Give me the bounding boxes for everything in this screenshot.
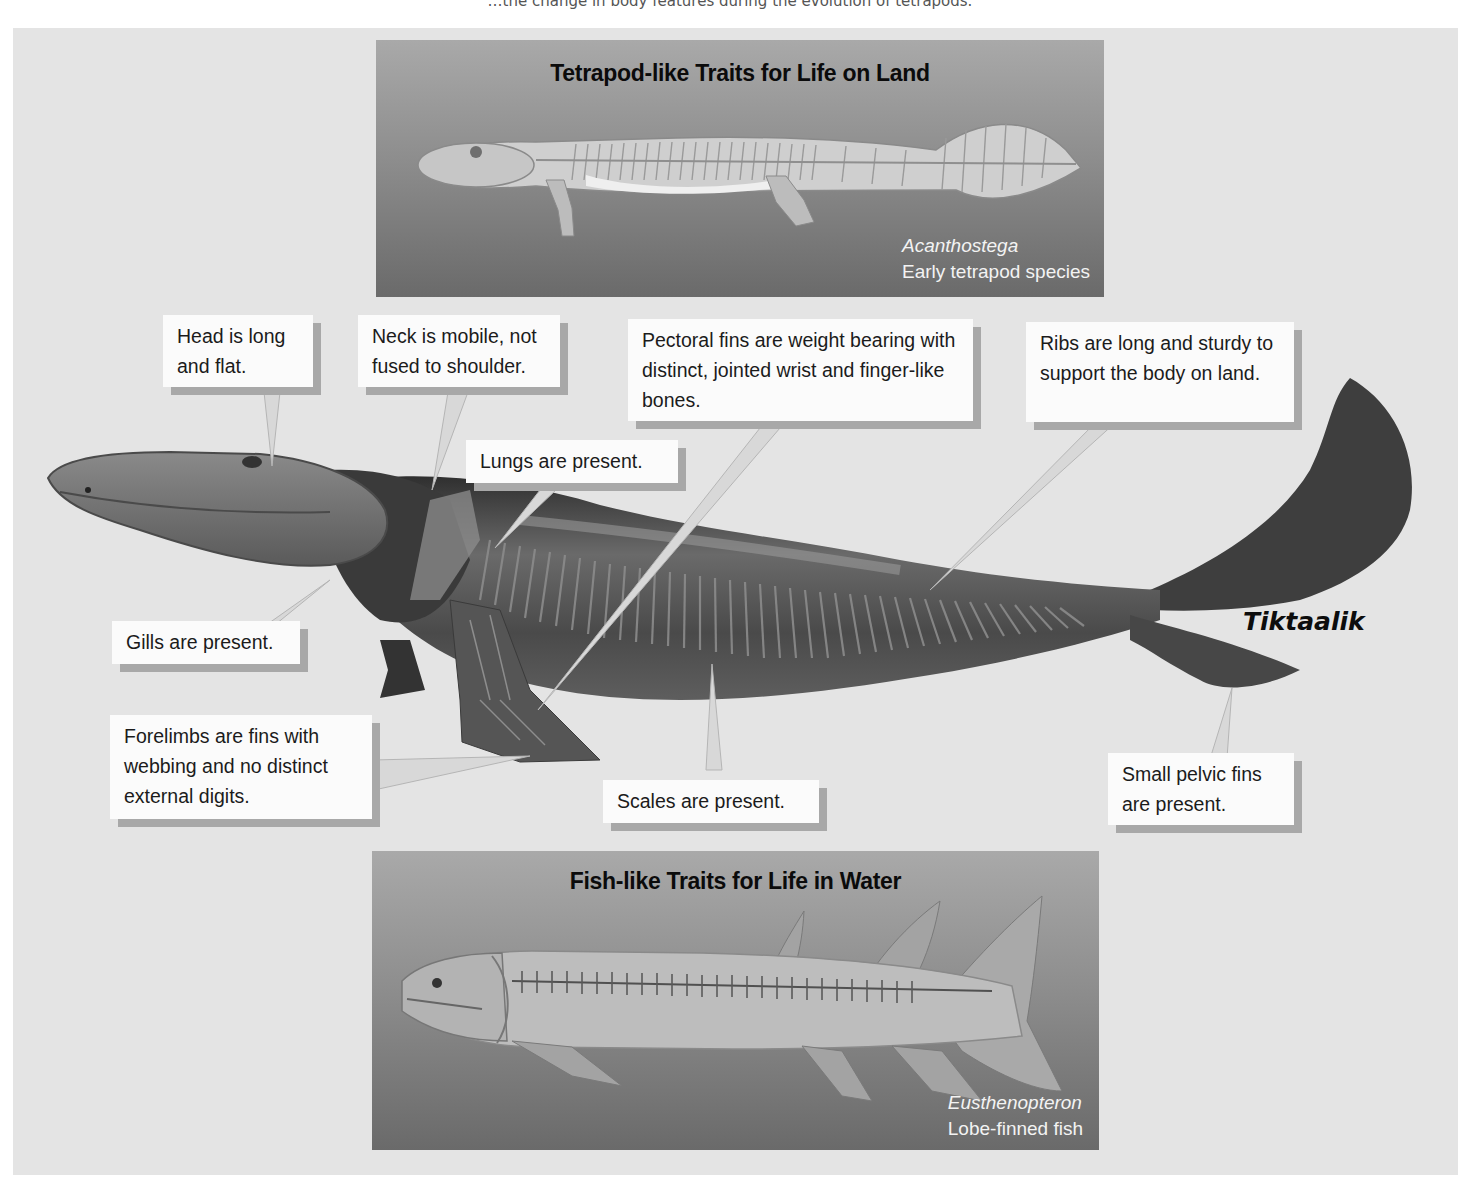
- callout-gills: Gills are present.: [112, 621, 300, 664]
- callout-head: Head is long and flat.: [163, 315, 313, 387]
- callout-scales: Scales are present.: [603, 780, 819, 823]
- head: [48, 452, 387, 566]
- callout-pectoral-fins: Pectoral fins are weight bearing with di…: [628, 319, 973, 421]
- tiktaalik-label: Tiktaalik: [1243, 607, 1365, 636]
- callout-ribs: Ribs are long and sturdy to support the …: [1026, 322, 1294, 422]
- callout-neck: Neck is mobile, not fused to shoulder.: [358, 315, 560, 387]
- callout-lungs: Lungs are present.: [466, 440, 678, 483]
- callout-pelvic-fins: Small pelvic fins are present.: [1108, 753, 1294, 825]
- eusthenopteron-label: Eusthenopteron Lobe-finned fish: [948, 1090, 1083, 1142]
- fish-traits-panel: Fish-like Traits for Life in Water: [372, 851, 1099, 1150]
- eusthenopteron-species-name: Eusthenopteron: [948, 1090, 1083, 1116]
- callout-forelimbs: Forelimbs are fins with webbing and no d…: [110, 715, 372, 819]
- eusthenopteron-description: Lobe-finned fish: [948, 1116, 1083, 1142]
